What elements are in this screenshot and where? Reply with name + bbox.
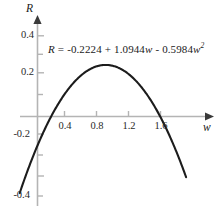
- equation-equals: =: [58, 43, 64, 55]
- x-axis-label: w: [203, 122, 211, 134]
- y-tick-label-0.4: 0.4: [8, 30, 34, 41]
- y-tick-label-neg0.2: -0.2: [4, 129, 30, 140]
- equation-c2: 0.5984: [162, 43, 193, 55]
- y-tick-label-0.2: 0.2: [8, 67, 34, 78]
- x-tick-label-0.8: 0.8: [82, 121, 112, 132]
- y-axis-label: R: [26, 3, 33, 15]
- x-axis-arrow-icon: [205, 112, 214, 120]
- y-axis-arrow-icon: [33, 15, 41, 24]
- y-tick-label-neg0.4: -0.4: [4, 190, 30, 201]
- x-tick-marks: [65, 111, 161, 117]
- equation-lhs: R: [48, 43, 55, 55]
- equation-c0: -0.2224: [67, 43, 102, 55]
- chart-figure: R w 0.4 0.2 -0.2 -0.4 0.4 0.8 1.2 1.6 R=…: [0, 0, 223, 217]
- equation-minus: -: [155, 43, 159, 55]
- x-tick-label-1.2: 1.2: [114, 121, 144, 132]
- equation-c1: 1.0944: [114, 43, 145, 55]
- equation-annotation: R=-0.2224+1.0944w-0.5984w2: [48, 43, 204, 55]
- equation-c2-exponent: 2: [200, 41, 204, 50]
- x-tick-label-1.6: 1.6: [146, 121, 176, 132]
- equation-plus: +: [105, 43, 111, 55]
- equation-c1-var: w: [145, 43, 152, 55]
- x-tick-label-0.4: 0.4: [50, 121, 80, 132]
